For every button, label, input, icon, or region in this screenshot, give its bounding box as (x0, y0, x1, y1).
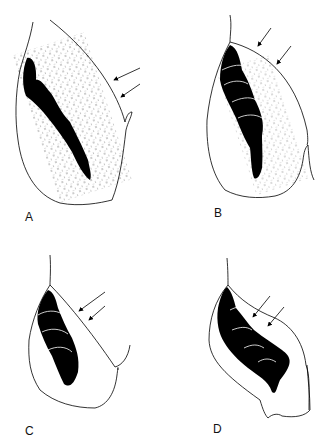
arrow-icon (258, 28, 271, 46)
panel-d (209, 258, 310, 418)
panel-a (13, 20, 140, 205)
panel-b (207, 15, 314, 198)
arrow-icon (121, 84, 140, 97)
panel-label-d: D (213, 422, 222, 436)
figure-canvas (0, 0, 324, 444)
arrow-icon (79, 292, 105, 311)
panel-c-mass (37, 290, 78, 386)
panel-label-a: A (25, 210, 33, 224)
arrow-icon (277, 46, 291, 64)
arrow-icon (114, 68, 140, 80)
arrow-icon (253, 296, 270, 317)
panel-d-mass (217, 287, 289, 393)
panel-c (29, 255, 130, 408)
arrow-icon (89, 306, 105, 320)
panel-label-c: C (25, 424, 34, 438)
panel-label-b: B (214, 206, 222, 220)
